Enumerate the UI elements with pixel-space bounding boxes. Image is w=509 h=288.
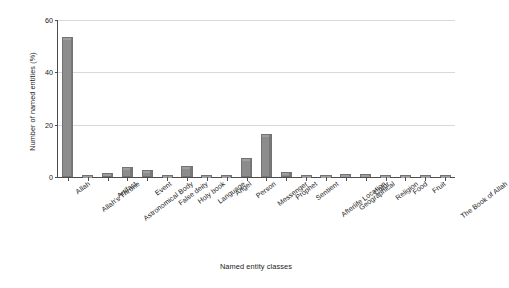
x-tick-label: Person bbox=[254, 180, 277, 200]
bar-side-shadow bbox=[71, 38, 73, 176]
y-tick-label: 60 bbox=[45, 16, 53, 25]
bar-side-shadow bbox=[250, 159, 252, 176]
x-tick-label: The Book of Allah bbox=[459, 180, 509, 220]
bar-side-shadow bbox=[289, 173, 291, 176]
bar-side-shadow bbox=[111, 174, 113, 176]
bar-side-shadow bbox=[130, 168, 132, 176]
y-tick-label: 0 bbox=[49, 173, 53, 182]
x-tick-label: Allah bbox=[74, 180, 92, 196]
bar bbox=[142, 170, 153, 177]
x-tick-label: Sentient bbox=[314, 180, 340, 202]
bar bbox=[62, 37, 73, 177]
gridline bbox=[58, 72, 455, 73]
y-tick-mark bbox=[55, 72, 59, 73]
bar bbox=[181, 166, 192, 177]
y-tick-mark bbox=[55, 20, 59, 21]
x-axis-title: Named entity classes bbox=[56, 262, 456, 271]
bar-side-shadow bbox=[150, 171, 152, 176]
bar bbox=[241, 158, 252, 177]
gridline bbox=[58, 20, 455, 21]
bar bbox=[122, 167, 133, 177]
bar-side-shadow bbox=[269, 135, 271, 176]
y-tick-label: 20 bbox=[45, 120, 53, 129]
x-tick-label: Fruit bbox=[431, 180, 447, 195]
y-tick-mark bbox=[55, 125, 59, 126]
bar bbox=[261, 134, 272, 177]
bar-side-shadow bbox=[349, 175, 351, 176]
gridline bbox=[58, 125, 455, 126]
y-tick-label: 40 bbox=[45, 68, 53, 77]
bar-side-shadow bbox=[369, 175, 371, 176]
bar-side-shadow bbox=[190, 167, 192, 176]
y-axis-title: Number of named entities (%) bbox=[28, 17, 37, 187]
x-axis-tick-labels: AllahAllah's ThroneArtifactAstronomical … bbox=[57, 180, 455, 258]
plot-area: 0204060 bbox=[57, 20, 455, 178]
y-tick-mark bbox=[55, 177, 59, 178]
